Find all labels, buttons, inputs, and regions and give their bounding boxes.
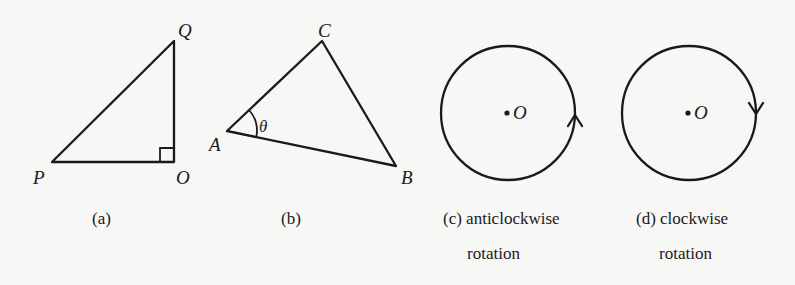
angle-arc-theta <box>249 110 257 138</box>
vertex-label-c: C <box>318 20 331 41</box>
vertex-label-q: Q <box>178 20 192 41</box>
vertex-label-b: B <box>401 167 413 188</box>
panel-b: θ C A B (b) <box>207 20 413 228</box>
vertex-label-o: O <box>176 167 190 188</box>
center-label-o: O <box>513 102 527 123</box>
center-point <box>504 110 509 115</box>
right-angle-marker <box>160 148 174 162</box>
caption-d-line2: rotation <box>659 244 712 263</box>
caption-a: (a) <box>92 209 111 228</box>
center-label-o: O <box>694 102 708 123</box>
caption-d-line1: (d) clockwise <box>636 209 728 228</box>
triangle-abc <box>227 41 396 166</box>
vertex-label-a: A <box>207 134 221 155</box>
caption-c-line2: rotation <box>467 244 520 263</box>
panel-a: Q P O (a) <box>32 20 192 228</box>
panel-c: O (c) anticlockwise rotation <box>441 46 582 263</box>
caption-c-line1: (c) anticlockwise <box>443 209 560 228</box>
geometry-figure: Q P O (a) θ C A B (b) O (c) anticlockwis… <box>0 0 795 285</box>
center-point <box>685 110 690 115</box>
panel-d: O (d) clockwise rotation <box>622 46 763 263</box>
vertex-label-p: P <box>32 167 45 188</box>
caption-b: (b) <box>281 209 301 228</box>
right-triangle-pqo <box>52 41 174 162</box>
angle-label-theta: θ <box>259 117 267 136</box>
